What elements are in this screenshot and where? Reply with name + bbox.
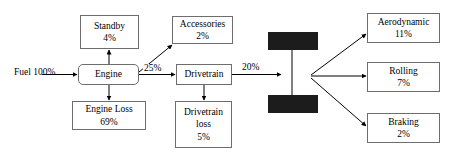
node-aerodynamic-value: 11% <box>395 28 412 40</box>
node-engine-loss-label: Engine Loss <box>85 103 132 115</box>
node-rolling-value: 7% <box>397 77 410 89</box>
node-accessories-value: 2% <box>196 30 209 42</box>
energy-flow-diagram: Fuel 100% Standby 4% Accessories 2% Engi… <box>0 0 455 159</box>
wheel-bottom-icon <box>268 95 318 113</box>
node-drivetrain-loss-value: 5% <box>197 131 210 143</box>
wheel-top-icon <box>268 32 318 50</box>
node-engine-label: Engine <box>95 68 122 80</box>
fuel-value: 100% <box>33 67 55 77</box>
edge-label-20-percent: 20% <box>241 63 260 73</box>
node-rolling[interactable]: Rolling 7% <box>367 62 440 92</box>
node-rolling-label: Rolling <box>389 65 418 77</box>
node-engine-loss[interactable]: Engine Loss 69% <box>72 101 146 130</box>
node-engine-loss-value: 69% <box>100 116 117 128</box>
node-standby[interactable]: Standby 4% <box>80 15 139 49</box>
edge-label-25-percent: 25% <box>143 64 162 74</box>
node-standby-label: Standby <box>94 20 125 32</box>
node-aerodynamic[interactable]: Aerodynamic 11% <box>367 13 440 43</box>
node-accessories[interactable]: Accessories 2% <box>172 16 233 44</box>
node-accessories-label: Accessories <box>180 18 225 30</box>
node-drivetrain-loss-label2: loss <box>196 118 211 130</box>
edge-wheels-to-aerodynamic <box>311 34 366 75</box>
node-drivetrain-label: Drivetrain <box>184 68 223 80</box>
edge-wheels-to-braking <box>311 78 366 126</box>
node-braking[interactable]: Braking 2% <box>367 113 440 143</box>
node-braking-value: 2% <box>397 128 410 140</box>
fuel-label: Fuel <box>14 67 31 77</box>
node-engine[interactable]: Engine <box>78 64 139 85</box>
node-braking-label: Braking <box>388 116 419 128</box>
node-drivetrain[interactable]: Drivetrain <box>176 64 232 85</box>
source-label-fuel: Fuel 100% <box>14 66 54 78</box>
node-standby-value: 4% <box>103 32 116 44</box>
node-aerodynamic-label: Aerodynamic <box>378 16 430 28</box>
node-drivetrain-loss-label: Drivetrain <box>184 106 223 118</box>
node-drivetrain-loss[interactable]: Drivetrain loss 5% <box>175 101 232 148</box>
